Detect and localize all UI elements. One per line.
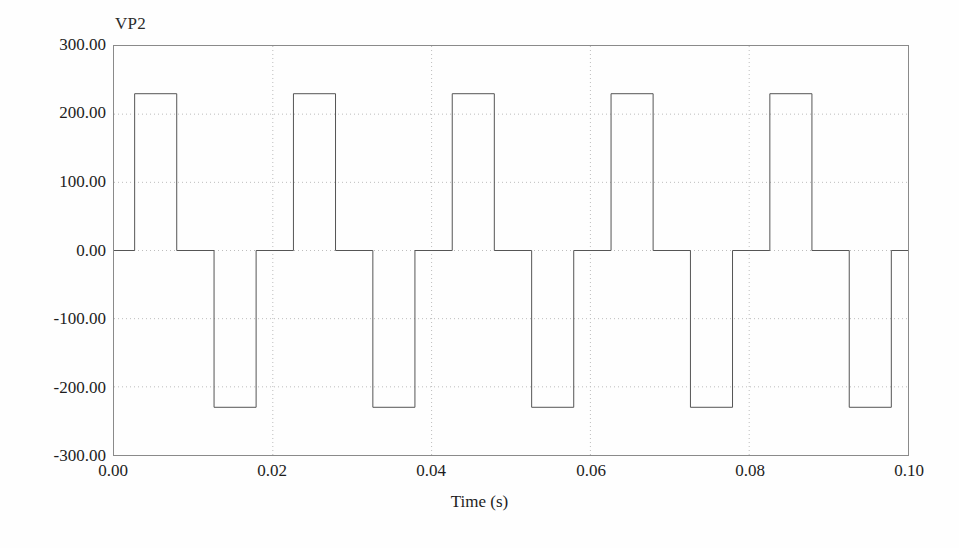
x-tick-label: 0.04: [416, 461, 446, 481]
y-tick-label: 200.00: [6, 103, 106, 123]
x-tick-label: 0.10: [894, 461, 924, 481]
x-tick-label: 0.06: [576, 461, 606, 481]
y-tick-label: 100.00: [6, 172, 106, 192]
y-tick-label: 300.00: [6, 35, 106, 55]
y-tick-label: -200.00: [6, 378, 106, 398]
x-axis-title: Time (s): [0, 492, 959, 512]
series-label: VP2: [115, 14, 146, 34]
x-tick-label: 0.08: [735, 461, 765, 481]
y-axis-tick-labels: 300.00 200.00 100.00 0.00 -100.00 -200.0…: [0, 0, 106, 548]
waveform-curve: [114, 46, 908, 455]
y-tick-label: -300.00: [6, 446, 106, 466]
plot-area: [113, 45, 909, 456]
x-tick-label: 0.00: [98, 461, 128, 481]
chart-figure: VP2 300.00 200.00 100.00 0.00 -100.00 -2…: [0, 0, 959, 548]
y-tick-label: 0.00: [6, 241, 106, 261]
x-tick-label: 0.02: [257, 461, 287, 481]
y-tick-label: -100.00: [6, 309, 106, 329]
